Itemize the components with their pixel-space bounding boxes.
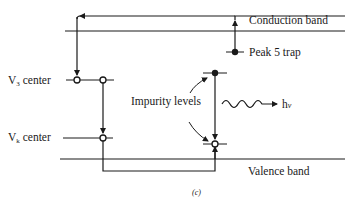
peak5-trap-label: Peak 5 trap: [249, 46, 301, 59]
impurity-pointer-upper: [190, 78, 207, 93]
band-diagram: Conduction band Valence band Peak 5 trap…: [0, 0, 355, 201]
photon-emission-wave: [222, 101, 277, 108]
valence-band-label: Valence band: [248, 165, 310, 177]
vk-center-hole: [100, 135, 106, 141]
top-left-corner: [77, 16, 80, 19]
v3-center-label: V3 center: [8, 74, 51, 88]
v3-center-hole-2: [100, 77, 106, 83]
impurity-hole: [212, 141, 218, 147]
impurity-levels-label: Impurity levels: [131, 95, 201, 108]
vk-center-label: Vk center: [8, 131, 51, 145]
impurity-electron-dot: [212, 70, 218, 76]
v3-center-hole-1: [74, 77, 80, 83]
photon-energy-label: hν: [282, 98, 292, 110]
figure-caption: (c): [192, 188, 201, 197]
impurity-pointer-lower: [189, 122, 208, 141]
bottom-path: [103, 141, 215, 171]
